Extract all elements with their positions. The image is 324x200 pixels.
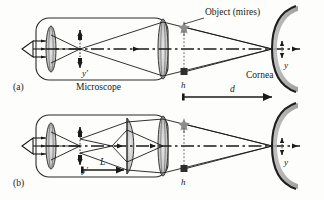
label-y-a: y: [283, 60, 288, 70]
label-cornea: Cornea: [246, 70, 274, 80]
label-y-prime-a: y′: [81, 68, 89, 78]
square-marker-a: [181, 68, 188, 75]
label-h-a: h: [181, 80, 186, 90]
label-d: d: [230, 84, 235, 94]
label-microscope: Microscope: [76, 82, 121, 92]
keratometer-diagram: y′ h y d: [0, 0, 324, 200]
label-h-b: h: [181, 177, 186, 187]
label-object-mires: Object (mires): [205, 7, 260, 18]
optics-figure: y′ h y d: [0, 0, 324, 200]
label-y-b: y: [283, 157, 288, 167]
label-L: L: [99, 157, 105, 167]
square-marker-b: [181, 165, 188, 172]
panel-tag-a: (a): [13, 82, 24, 93]
panel-tag-b: (b): [13, 178, 24, 189]
